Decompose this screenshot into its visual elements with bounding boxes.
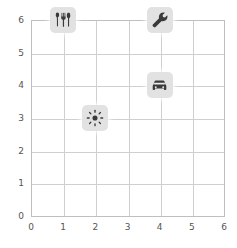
data-point-marker[interactable] (147, 7, 173, 33)
y-axis-tick-label: 1 (12, 178, 24, 189)
gridline-horizontal (32, 54, 224, 55)
x-axis-tick-label: 4 (152, 222, 168, 233)
x-axis-tick-label: 1 (55, 222, 71, 233)
gridline-horizontal (32, 119, 224, 120)
wrench-icon (151, 11, 169, 29)
y-axis-tick-label: 6 (12, 15, 24, 26)
plot-area (31, 20, 225, 217)
y-axis-tick-label: 0 (12, 211, 24, 222)
x-axis-tick-label: 2 (87, 222, 103, 233)
data-point-marker[interactable] (50, 7, 76, 33)
scatter-chart: 01234560123456 (0, 0, 237, 248)
x-axis-tick-label: 6 (216, 222, 232, 233)
x-axis-tick-label: 0 (23, 222, 39, 233)
utensils-icon (54, 11, 72, 29)
data-point-marker[interactable] (82, 105, 108, 131)
y-axis-tick-label: 4 (12, 80, 24, 91)
data-point-marker[interactable] (147, 72, 173, 98)
gridline-horizontal (32, 184, 224, 185)
y-axis-tick-label: 2 (12, 146, 24, 157)
gridline-horizontal (32, 152, 224, 153)
x-axis-tick-label: 5 (184, 222, 200, 233)
x-axis-tick-label: 3 (120, 222, 136, 233)
y-axis-tick-label: 5 (12, 48, 24, 59)
car-icon (150, 76, 169, 95)
y-axis-tick-label: 3 (12, 113, 24, 124)
gridline-horizontal (32, 86, 224, 87)
sun-icon (86, 109, 104, 127)
